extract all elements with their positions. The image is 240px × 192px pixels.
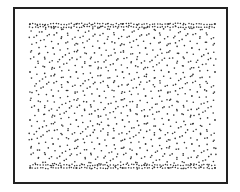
pattern-dot [66,159,68,161]
pattern-dot [118,86,120,88]
pattern-dot [45,164,47,166]
pattern-dot [154,132,156,134]
pattern-dot [48,110,50,112]
pattern-dot [53,23,55,25]
pattern-dot [40,26,42,28]
pattern-dot [94,26,96,28]
pattern-dot [84,23,86,25]
pattern-dot [156,160,158,162]
pattern-dot [144,163,146,165]
pattern-dot [58,23,60,25]
pattern-dot [67,90,69,92]
pattern-dot [203,164,205,166]
pattern-dot [123,154,125,156]
pattern-dot [207,83,209,85]
pattern-dot [207,53,209,55]
pattern-dot [29,119,31,121]
pattern-dot [101,150,103,152]
pattern-dot [203,102,205,104]
pattern-dot [167,36,169,38]
pattern-dot [198,67,200,69]
pattern-dot [105,23,107,25]
pattern-dot [213,85,215,87]
pattern-dot [202,111,204,113]
pattern-dot [206,42,208,44]
pattern-dot [80,56,82,58]
pattern-dot [35,26,37,28]
pattern-dot [69,149,71,151]
pattern-dot [205,81,207,83]
pattern-dot [78,126,80,128]
pattern-dot [59,156,61,158]
pattern-dot [67,144,69,146]
pattern-dot [184,29,186,31]
pattern-dot [31,92,33,94]
pattern-dot [174,35,176,37]
pattern-dot [123,26,125,28]
pattern-dot [143,41,145,43]
pattern-dot [168,119,170,121]
pattern-dot [31,107,33,109]
pattern-dot [127,162,129,164]
pattern-dot [147,122,149,124]
pattern-dot [66,24,68,26]
pattern-dot [113,137,115,139]
pattern-dot [168,51,170,53]
pattern-dot [102,164,104,166]
pattern-dot [34,85,36,87]
pattern-dot [185,168,187,170]
pattern-dot [213,161,215,163]
pattern-dot [75,119,77,121]
pattern-dot [196,26,198,28]
pattern-dot [61,87,63,89]
pattern-dot [107,36,109,38]
pattern-dot [90,58,92,60]
pattern-dot [113,167,115,169]
pattern-dot [32,27,34,29]
pattern-dot [191,47,193,49]
pattern-dot [173,84,175,86]
pattern-dot [42,126,44,128]
pattern-dot [201,152,203,154]
pattern-dot [67,82,69,84]
pattern-dot [109,112,111,114]
pattern-dot [76,106,78,108]
pattern-dot [144,76,146,78]
pattern-dot [70,124,72,126]
pattern-dot [108,125,110,127]
pattern-dot [161,59,163,61]
pattern-dot [175,90,177,92]
pattern-dot [123,106,125,108]
pattern-dot [193,150,195,152]
pattern-dot [180,27,182,29]
pattern-dot [108,103,110,105]
pattern-dot [151,107,153,109]
pattern-dot [160,167,162,169]
pattern-dot [181,39,183,41]
pattern-dot [122,148,124,150]
pattern-dot [190,109,192,111]
pattern-dot [214,43,216,45]
pattern-dot [132,101,134,103]
pattern-dot [67,128,69,130]
pattern-dot [117,106,119,108]
pattern-dot [126,57,128,59]
pattern-dot [76,99,78,101]
pattern-dot [44,154,46,156]
pattern-dot [205,110,207,112]
pattern-dot [133,26,135,28]
pattern-dot [195,129,197,131]
pattern-dot [55,167,57,169]
pattern-dot [159,82,161,84]
pattern-dot [141,157,143,159]
pattern-dot [50,23,52,25]
pattern-dot [105,66,107,68]
pattern-dot [54,150,56,152]
pattern-dot [173,114,175,116]
pattern-dot [159,164,161,166]
pattern-dot [37,137,39,139]
pattern-dot [31,125,33,127]
pattern-dot [43,114,45,116]
pattern-dot [169,23,171,25]
pattern-dot [108,70,110,72]
